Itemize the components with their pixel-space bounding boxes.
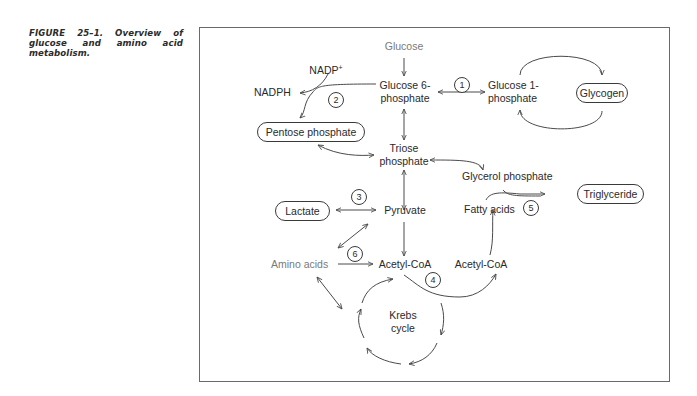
krebs-arc-5 [359,309,364,338]
node-glucose: Glucose [376,40,432,53]
node-g1p-line1: Glucose 1- [488,79,544,92]
node-lactate: Lactate [275,201,330,221]
node-nadph: NADPH [254,86,294,99]
arrow-pentose-triose [318,145,374,155]
node-g6p-line1: Glucose 6- [377,79,433,92]
step-3-badge: 3 [351,189,367,205]
nadp-text: NADP [309,64,338,76]
node-g1p-line2: phosphate [488,92,544,105]
node-fatty-acids: Fatty acids [464,203,524,216]
node-triose-phosphate: Triose phosphate [376,142,432,168]
node-glucose-6-phosphate: Glucose 6- phosphate [377,79,433,105]
node-pentose-phosphate: Pentose phosphate [257,122,365,142]
arrow-amino-pyruvate [338,224,368,248]
node-krebs-cycle: Krebs cycle [383,309,423,335]
step-1-badge: 1 [454,77,470,93]
node-glucose-1-phosphate: Glucose 1- phosphate [488,79,544,105]
arrow-glycogen-to-g1p [520,110,602,129]
node-glycogen: Glycogen [576,83,628,103]
node-acetyl-coa-main: Acetyl-CoA [377,258,433,271]
step-5-badge: 5 [523,200,539,216]
arrow-acetyl-to-fatty [490,210,493,255]
arrow-acetyl-to-acetyl [404,274,496,297]
nadp-superscript: + [339,64,343,71]
node-krebs-line2: cycle [383,322,423,335]
arrow-to-pentose [300,92,313,118]
arrow-g1p-to-glycogen [520,56,602,75]
node-nadp: NADP+ [306,64,346,77]
arrow-amino-krebs [317,277,342,309]
node-triglyceride: Triglyceride [577,184,644,204]
node-pyruvate: Pyruvate [380,204,430,217]
node-glycerol-phosphate: Glycerol phosphate [462,170,552,183]
krebs-arc-4 [367,348,401,364]
step-4-badge: 4 [425,272,441,288]
arrow-triose-glycerol [430,160,483,170]
krebs-arc-2 [441,303,444,335]
node-acetyl-coa-right: Acetyl-CoA [453,258,509,271]
node-krebs-line1: Krebs [383,309,423,322]
node-triose-line1: Triose [376,142,432,155]
krebs-arc-3 [409,343,437,364]
node-triose-line2: phosphate [376,155,432,168]
arrow-g6p-pentose-line [313,84,376,92]
step-6-badge: 6 [347,246,363,262]
node-amino-acids: Amino acids [271,258,335,271]
step-2-badge: 2 [328,92,344,108]
node-g6p-line2: phosphate [377,92,433,105]
krebs-arc-1 [362,279,393,303]
